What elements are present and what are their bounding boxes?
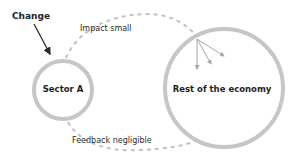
impact-label: Impact small bbox=[80, 24, 132, 33]
sector-a-label: Sector A bbox=[43, 84, 84, 94]
change-arrow bbox=[34, 24, 50, 54]
diagram-canvas: Change Impact small Feedback negligible … bbox=[0, 0, 292, 164]
change-label: Change bbox=[12, 11, 50, 21]
feedback-label: Feedback negligible bbox=[72, 136, 152, 145]
rest-of-economy-label: Rest of the economy bbox=[173, 84, 272, 94]
